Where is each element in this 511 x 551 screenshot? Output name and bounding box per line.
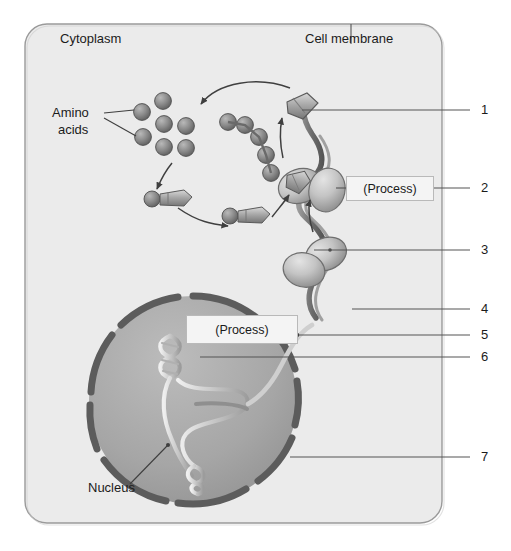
label-cell-membrane: Cell membrane (305, 31, 393, 46)
diagram-svg (0, 0, 511, 551)
label-amino-acids-line2: acids (58, 122, 88, 137)
trna-lower (222, 207, 270, 224)
label-amino-acids-line1: Amino (52, 105, 89, 120)
callout-number-5[interactable]: 5 (481, 327, 488, 342)
label-cytoplasm: Cytoplasm (60, 31, 121, 46)
process-box-upper[interactable]: (Process) (346, 176, 434, 201)
callout-number-1[interactable]: 1 (481, 102, 488, 117)
process-box-lower[interactable]: (Process) (186, 315, 298, 344)
trna-upper (144, 190, 192, 207)
callout-number-6[interactable]: 6 (481, 349, 488, 364)
diagram-canvas: Cytoplasm Cell membrane Amino acids Nucl… (0, 0, 511, 551)
callout-number-7[interactable]: 7 (481, 449, 488, 464)
callout-number-4[interactable]: 4 (481, 301, 488, 316)
callout-number-2[interactable]: 2 (481, 180, 488, 195)
label-nucleus: Nucleus (88, 480, 135, 495)
callout-number-3[interactable]: 3 (481, 242, 488, 257)
